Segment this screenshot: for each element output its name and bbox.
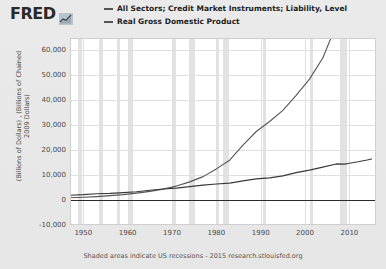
legend-swatch-credit	[104, 8, 113, 10]
y-axis: 60,00050,00040,00030,00020,00010,0000-10…	[0, 38, 66, 225]
x-axis-tick-label: 1950	[63, 229, 103, 237]
x-axis-tick-label: 1990	[241, 229, 281, 237]
y-axis-tick-label: 40,000	[2, 96, 66, 104]
x-axis-tick-label: 2000	[285, 229, 325, 237]
fred-logo-text: FRED	[10, 6, 55, 22]
x-axis: 1950196019701980199020002010	[70, 229, 376, 241]
x-axis-tick-label: 2010	[329, 229, 369, 237]
x-axis-tick-label: 1960	[108, 229, 148, 237]
series-layer	[70, 38, 376, 225]
y-axis-tick-label: 10,000	[2, 171, 66, 179]
legend-item-credit: All Sectors; Credit Market Instruments; …	[104, 3, 347, 14]
legend-swatch-gdp	[104, 21, 113, 23]
x-axis-tick-label: 1980	[196, 229, 236, 237]
legend-label-gdp: Real Gross Domestic Product	[117, 17, 240, 26]
y-axis-tick-label: 50,000	[2, 71, 66, 79]
plot-area	[70, 38, 376, 225]
y-axis-tick-label: 60,000	[2, 46, 66, 54]
mini-line-chart-icon	[59, 10, 73, 22]
y-axis-title: (Billions of Dollars) , (Billions of Cha…	[15, 46, 31, 186]
y-axis-tick-label: 20,000	[2, 146, 66, 154]
fred-chart-page: FRED All Sectors; Credit Market Instrume…	[0, 0, 386, 269]
chart-header: FRED All Sectors; Credit Market Instrume…	[0, 0, 386, 30]
chart-footnote: Shaded areas indicate US recessions - 20…	[0, 252, 386, 260]
chart-area: 60,00050,00040,00030,00020,00010,0000-10…	[0, 30, 386, 245]
x-axis-tick-label: 1970	[152, 229, 192, 237]
y-axis-tick-label: -10,000	[2, 221, 66, 229]
y-axis-tick-label: 30,000	[2, 121, 66, 129]
chart-legend: All Sectors; Credit Market Instruments; …	[104, 3, 347, 29]
legend-label-credit: All Sectors; Credit Market Instruments; …	[117, 4, 347, 13]
legend-item-gdp: Real Gross Domestic Product	[104, 16, 347, 27]
series-line-gdp	[70, 159, 372, 195]
y-axis-tick-label: 0	[2, 196, 66, 204]
series-line-credit	[70, 38, 372, 198]
fred-logo[interactable]: FRED	[10, 6, 73, 22]
